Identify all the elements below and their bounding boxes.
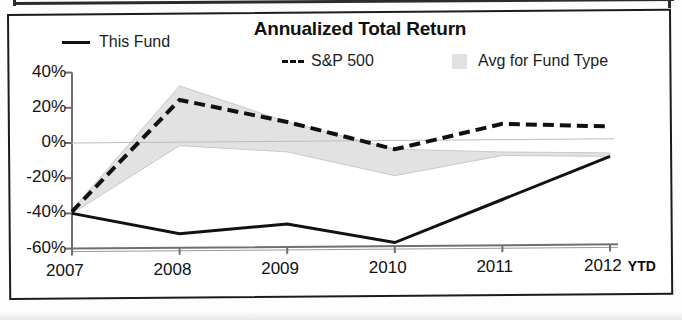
scanned-page: Annualized Total Return This Fund S&P 50… — [0, 0, 682, 320]
y-tick-label: -40% — [0, 202, 66, 222]
chart-plot-area — [0, 0, 682, 320]
y-tick-label: -60% — [0, 238, 66, 258]
y-tick-label: -20% — [0, 167, 66, 187]
y-tick-label: 40% — [0, 62, 66, 82]
chart-panel: Annualized Total Return This Fund S&P 50… — [0, 0, 682, 320]
x-tick-label: 2010 — [369, 258, 407, 278]
y-tick-label: 20% — [0, 97, 66, 117]
x-tick-label-year: 2012 — [584, 256, 622, 276]
x-tick-label: 2009 — [261, 259, 299, 279]
y-tick-label: 0% — [0, 132, 66, 152]
page-bottom-shadow — [0, 311, 682, 320]
x-tick-label-ytd: YTD — [628, 258, 656, 274]
x-tick-label: 2007 — [46, 261, 84, 281]
x-tick-label: 2008 — [154, 260, 192, 280]
x-tick-label: 2012YTD — [584, 256, 656, 276]
x-tick-label: 2011 — [476, 257, 513, 277]
